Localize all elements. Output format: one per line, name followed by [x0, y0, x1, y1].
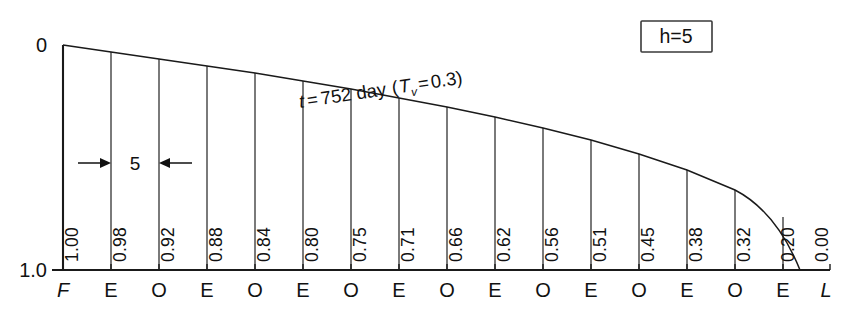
- node-letter: E: [584, 279, 597, 301]
- node-letter: O: [727, 279, 743, 301]
- value-label: 0.45: [638, 227, 658, 262]
- value-label: 0.66: [446, 227, 466, 262]
- value-label: 0.20: [778, 227, 798, 262]
- consolidation-isochrone-figure: 0 1.0 5 t=752 day(Tv=0.3) 1.00 0.98 0.92…: [0, 0, 842, 333]
- node-letter: O: [247, 279, 263, 301]
- curve-label-group: t=752 day(Tv=0.3): [297, 67, 464, 116]
- node-letter: O: [343, 279, 359, 301]
- node-letter: E: [104, 279, 117, 301]
- isochrone-diagram: 0 1.0 5 t=752 day(Tv=0.3) 1.00 0.98 0.92…: [0, 0, 842, 333]
- node-letter: O: [151, 279, 167, 301]
- node-letter: O: [631, 279, 647, 301]
- value-label: 0.32: [734, 227, 754, 262]
- value-labels: 1.00 0.98 0.92 0.88 0.84 0.80 0.75 0.71 …: [62, 227, 832, 262]
- axis-label-top: 0: [36, 34, 47, 56]
- annotation-box-label: h=5: [659, 25, 692, 47]
- curve-label-tv-equals: =: [416, 72, 430, 94]
- value-label: 1.00: [62, 227, 82, 262]
- value-label: 0.38: [686, 227, 706, 262]
- dimension-value: 5: [130, 153, 141, 174]
- value-label: 0.71: [398, 227, 418, 262]
- node-letter: E: [488, 279, 501, 301]
- value-label: 0.84: [254, 227, 274, 262]
- value-label: 0.88: [206, 227, 226, 262]
- value-label: 0.80: [302, 227, 322, 262]
- node-letter: O: [535, 279, 551, 301]
- value-label: 0.98: [110, 227, 130, 262]
- node-letter: E: [680, 279, 693, 301]
- node-letter: E: [776, 279, 789, 301]
- curve-label-tv-value: 0.3: [429, 68, 458, 93]
- value-label: 0.51: [590, 227, 610, 262]
- node-letter: E: [392, 279, 405, 301]
- value-label: 0.92: [158, 227, 178, 262]
- node-letter: E: [296, 279, 309, 301]
- value-label: 0.56: [542, 227, 562, 262]
- node-letter: E: [200, 279, 213, 301]
- curve-label-time-value: 752 day: [319, 78, 388, 109]
- node-letter: O: [439, 279, 455, 301]
- arrow-right-icon: [100, 158, 111, 168]
- curve-label-equals: =: [306, 88, 320, 110]
- value-label: 0.62: [494, 227, 514, 262]
- value-label: 0.00: [812, 227, 832, 262]
- node-letter-end: L: [820, 279, 831, 301]
- axis-label-bottom: 1.0: [19, 259, 47, 281]
- annotation-box-group: h=5: [641, 21, 712, 52]
- curve-label: t=752 day(Tv=0.3): [297, 67, 464, 116]
- value-label: 0.75: [350, 227, 370, 262]
- arrow-left-icon: [159, 158, 170, 168]
- node-letters: F E O E O E O E O E O E O E O E L: [57, 279, 832, 301]
- dimension-annotation: 5: [78, 153, 192, 174]
- node-letter-start: F: [57, 279, 71, 301]
